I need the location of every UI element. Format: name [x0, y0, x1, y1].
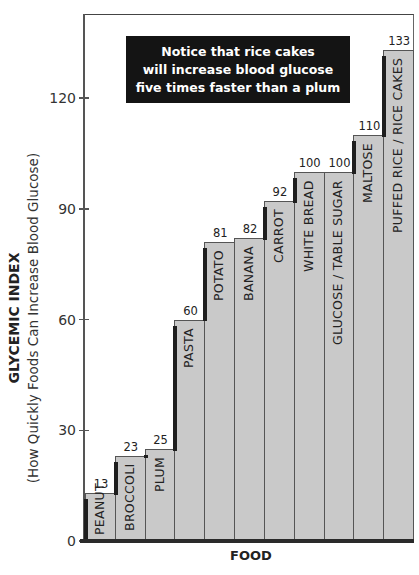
bar-value-label: 60: [175, 304, 205, 318]
y-tick: [79, 208, 89, 210]
x-axis-baseline: [80, 539, 414, 543]
bar-category-label: GLUCOSE / TABLE SUGAR: [330, 180, 345, 345]
bar-value-label: 100: [295, 156, 325, 170]
bar-value-label: 133: [384, 34, 414, 48]
bar-value-label: 82: [235, 222, 265, 236]
bar-category-label: WHITE BREAD: [301, 180, 316, 272]
bar-category-label: PLUM: [152, 457, 167, 492]
bar-shadow: [203, 248, 207, 322]
bar-value-label: 110: [354, 119, 384, 133]
bar-category-label: PUFFED RICE / RICE CAKES: [390, 58, 405, 233]
bar-shadow: [352, 141, 356, 174]
bar-shadow: [84, 499, 88, 541]
bar-value-label: 25: [146, 433, 176, 447]
y-tick-label: 30: [36, 422, 76, 438]
y-axis-line: [83, 14, 85, 542]
annotation-box: Notice that rice cakes will increase blo…: [126, 36, 350, 103]
bar-shadow: [263, 207, 267, 240]
bar-shadow: [173, 326, 177, 451]
bar-shadow: [144, 455, 148, 458]
y-tick-label: 60: [36, 312, 76, 328]
y-axis-title: GLYCEMIC INDEX: [6, 253, 22, 384]
y-tick-label: 90: [36, 201, 76, 217]
glycemic-index-chart: 0306090120 PEANUT13BROCCOLI23PLUM25PASTA…: [0, 0, 419, 575]
bar-category-label: PASTA: [181, 328, 196, 368]
bar-value-label: 81: [205, 226, 235, 240]
y-axis-subtitle: (How Quickly Foods Can Increase Blood Gl…: [25, 153, 41, 483]
y-tick-label: 0: [36, 533, 76, 549]
bar-shadow: [382, 56, 386, 137]
y-tick: [79, 319, 89, 321]
bar-category-label: BROCCOLI: [122, 464, 137, 531]
y-tick-label: 120: [36, 90, 76, 106]
annotation-line-2: will increase blood glucose: [126, 61, 350, 79]
bar-value-label: 100: [325, 156, 355, 170]
annotation-line-3: five times faster than a plum: [126, 79, 350, 97]
bar-category-label: POTATO: [211, 250, 226, 301]
y-tick: [79, 97, 89, 99]
bar-value-label: 92: [265, 185, 295, 199]
bar-shadow: [293, 178, 297, 204]
bar-value-label: 13: [86, 477, 116, 491]
y-tick: [79, 430, 89, 432]
bar-category-label: MALTOSE: [360, 143, 375, 203]
bar-category-label: BANANA: [241, 247, 256, 302]
bar-shadow: [114, 462, 118, 495]
bar-value-label: 23: [116, 440, 146, 454]
annotation-line-1: Notice that rice cakes: [126, 43, 350, 61]
bar-category-label: CARROT: [271, 209, 286, 263]
x-axis-title: FOOD: [230, 548, 272, 563]
